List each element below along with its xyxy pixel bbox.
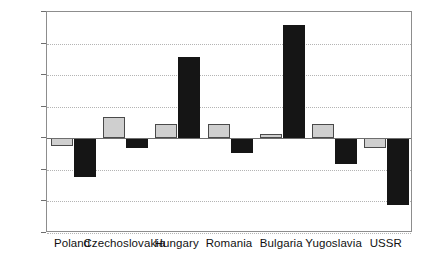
bar-ussr-light [364,138,386,147]
gridline [47,75,411,76]
gridline [47,107,411,108]
x-axis-label-yugoslavia: Yugoslavia [305,238,362,250]
y-axis-tick-mark [41,232,46,233]
x-axis-label-czechoslovakia: Czechoslovakia [83,238,165,250]
gridline [47,233,411,234]
zero-gridline [47,138,411,139]
bar-yugoslavia-light [312,124,334,139]
bar-czechoslovakia-dark [126,138,148,148]
gridline [47,170,411,171]
bar-romania-dark [231,138,253,153]
bar-bulgaria-dark [283,25,305,139]
bar-ussr-dark [387,138,409,204]
gridline [47,201,411,202]
bar-romania-light [208,124,230,138]
x-axis-label-bulgaria: Bulgaria [260,238,303,250]
bar-chart: 20151050-5-10-15 PolandCzechoslovakiaHun… [0,0,423,260]
plot-area [46,11,412,232]
x-axis-label-romania: Romania [206,238,253,250]
bar-hungary-light [155,124,177,138]
x-axis-label-ussr: USSR [370,238,402,250]
x-axis-label-hungary: Hungary [155,238,199,250]
bar-poland-light [51,138,73,146]
bar-hungary-dark [178,57,200,138]
bar-yugoslavia-dark [335,138,357,163]
gridline [47,44,411,45]
bar-czechoslovakia-light [103,117,125,138]
bar-poland-dark [74,138,96,177]
